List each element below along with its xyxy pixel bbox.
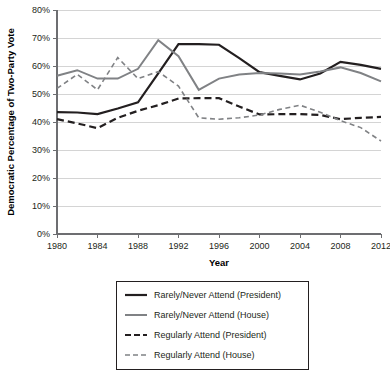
x-axis-title: Year	[209, 257, 229, 268]
legend-label-3: Regularly Attend (House)	[154, 350, 255, 360]
legend-label-2: Regularly Attend (President)	[154, 330, 267, 340]
x-tick-label-2004: 2004	[290, 241, 310, 251]
legend-label-0: Rarely/Never Attend (President)	[154, 290, 281, 300]
y-tick-label-50: 50%	[32, 89, 50, 99]
y-axis-title: Democratic Percentage of Two-Party Vote	[5, 28, 16, 216]
x-tick-label-2012: 2012	[371, 241, 390, 251]
x-tick-label-1984: 1984	[87, 241, 107, 251]
y-tick-label-70: 70%	[32, 33, 50, 43]
x-tick-label-1980: 1980	[47, 241, 67, 251]
series-line-1	[57, 40, 381, 90]
x-tick-label-1992: 1992	[168, 241, 188, 251]
y-tick-label-20: 20%	[32, 173, 50, 183]
y-tick-label-80: 80%	[32, 5, 50, 15]
x-tick-label-2008: 2008	[330, 241, 350, 251]
y-tick-label-10: 10%	[32, 201, 50, 211]
x-tick-label-1996: 1996	[209, 241, 229, 251]
chart-figure: 0%10%20%30%40%50%60%70%80%19801984198819…	[0, 0, 390, 374]
x-tick-label-1988: 1988	[128, 241, 148, 251]
x-tick-label-2000: 2000	[249, 241, 269, 251]
y-tick-label-0: 0%	[37, 229, 50, 239]
line-chart: 0%10%20%30%40%50%60%70%80%19801984198819…	[0, 0, 390, 374]
y-tick-label-60: 60%	[32, 61, 50, 71]
y-tick-label-30: 30%	[32, 145, 50, 155]
legend-label-1: Rarely/Never Attend (House)	[154, 310, 269, 320]
series-line-2	[57, 98, 381, 128]
y-tick-label-40: 40%	[32, 117, 50, 127]
